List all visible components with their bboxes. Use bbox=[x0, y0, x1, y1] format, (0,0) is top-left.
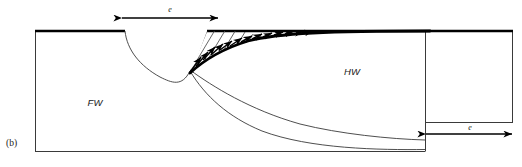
fault-curves bbox=[125, 31, 425, 150]
heave-top-annotation: e bbox=[122, 5, 218, 18]
hangingwall-label: HW bbox=[344, 66, 361, 77]
fault-trace-path bbox=[190, 31, 430, 73]
footwall-label: FW bbox=[88, 97, 104, 108]
heave-bottom-annotation: e bbox=[426, 123, 512, 134]
listric-curve-inner bbox=[190, 70, 425, 140]
footwall-cutoff-curve bbox=[125, 31, 190, 82]
heave-top-label: e bbox=[168, 5, 172, 14]
cross-section-svg: e e FW HW (b) bbox=[0, 0, 522, 167]
heave-bottom-label: e bbox=[468, 123, 472, 132]
fault-trace bbox=[190, 31, 430, 73]
hatched-wedge bbox=[166, 16, 333, 100]
panel-label: (b) bbox=[6, 138, 17, 149]
figure-panel-b: e e FW HW (b) bbox=[0, 0, 522, 167]
